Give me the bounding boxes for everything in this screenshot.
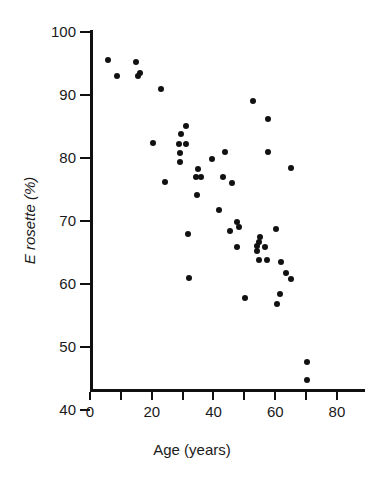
y-tick-label-50: 50 <box>36 339 76 354</box>
data-point <box>250 98 256 104</box>
data-point <box>186 275 192 281</box>
data-point <box>183 123 189 129</box>
x-tick-label-80: 80 <box>317 404 357 419</box>
x-axis-line <box>90 389 365 392</box>
x-tick-70 <box>305 392 307 400</box>
y-tick-label-text: 70 <box>42 213 76 228</box>
y-tick-label-text: 80 <box>42 150 76 165</box>
data-point <box>194 192 200 198</box>
y-tick-label-60: 60 <box>36 276 76 291</box>
y-tick-label-70: 70 <box>36 213 76 228</box>
data-point <box>304 377 310 383</box>
data-point <box>177 150 183 156</box>
y-tick-label-text: 100 <box>42 24 76 39</box>
data-point <box>274 301 280 307</box>
y-axis-title: E rosette (%) <box>21 136 38 306</box>
data-point <box>162 179 168 185</box>
data-point <box>277 291 283 297</box>
data-point <box>135 73 141 79</box>
y-tick-label-text: 60 <box>42 276 76 291</box>
y-tick-label-80: 80 <box>36 150 76 165</box>
y-tick-label-100: 100 <box>36 24 76 39</box>
data-point <box>150 140 156 146</box>
data-point <box>234 244 240 250</box>
data-point <box>198 174 204 180</box>
data-point <box>209 156 215 162</box>
y-tick-60 <box>80 283 90 285</box>
data-point <box>288 165 294 171</box>
y-tick-100 <box>80 31 90 33</box>
data-point <box>262 244 268 250</box>
y-tick-label-text: 50 <box>42 339 76 354</box>
y-tick-label-text: 90 <box>42 87 76 102</box>
data-point <box>229 180 235 186</box>
x-tick-60 <box>274 392 276 400</box>
data-point <box>242 295 248 301</box>
x-tick-20 <box>151 392 153 400</box>
data-point <box>278 259 284 265</box>
data-point <box>254 248 260 254</box>
x-tick-label-20: 20 <box>132 404 172 419</box>
data-point <box>178 131 184 137</box>
y-tick-50 <box>80 346 90 348</box>
data-point <box>256 257 262 263</box>
data-point <box>283 270 289 276</box>
y-tick-70 <box>80 220 90 222</box>
data-point <box>158 86 164 92</box>
data-point <box>105 57 111 63</box>
x-tick-30 <box>182 392 184 400</box>
data-point <box>304 359 310 365</box>
data-point <box>288 276 294 282</box>
x-tick-0 <box>89 392 91 400</box>
scatter-plot-figure: 405060708090100 020406080 E rosette (%) … <box>0 0 384 486</box>
data-point <box>114 73 120 79</box>
data-point <box>195 166 201 172</box>
data-point <box>264 257 270 263</box>
data-point <box>222 149 228 155</box>
x-tick-10 <box>120 392 122 400</box>
data-point <box>265 149 271 155</box>
data-point <box>177 159 183 165</box>
x-tick-40 <box>212 392 214 400</box>
data-point <box>185 231 191 237</box>
data-point <box>236 224 242 230</box>
x-axis-title: Age (years) <box>0 441 384 458</box>
data-point <box>216 207 222 213</box>
y-tick-90 <box>80 94 90 96</box>
data-point <box>183 141 189 147</box>
x-tick-label-60: 60 <box>255 404 295 419</box>
plot-area: 405060708090100 020406080 E rosette (%) … <box>0 0 384 486</box>
data-point <box>227 228 233 234</box>
data-point <box>133 59 139 65</box>
data-point <box>176 141 182 147</box>
x-tick-label-0: 0 <box>70 404 110 419</box>
data-point <box>273 226 279 232</box>
y-tick-80 <box>80 157 90 159</box>
y-axis-line <box>90 30 93 392</box>
x-tick-80 <box>336 392 338 400</box>
data-point <box>265 116 271 122</box>
data-point <box>220 174 226 180</box>
y-tick-label-90: 90 <box>36 87 76 102</box>
x-tick-50 <box>243 392 245 400</box>
x-tick-label-40: 40 <box>193 404 233 419</box>
